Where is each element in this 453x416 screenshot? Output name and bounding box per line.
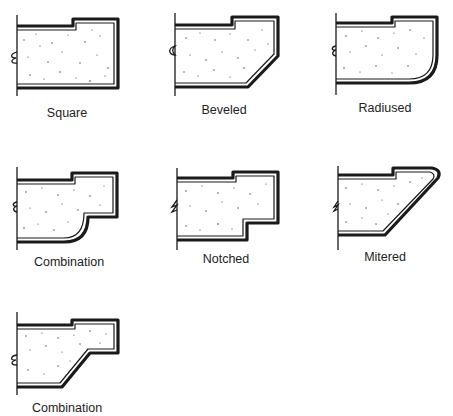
outer-edge bbox=[17, 173, 117, 242]
countertop-edge-profiles-diagram: Square Beveled Radiused bbox=[0, 0, 453, 416]
label-square: Square bbox=[47, 106, 87, 120]
label-radiused: Radiused bbox=[359, 101, 412, 115]
label-notched: Notched bbox=[203, 252, 250, 266]
label-beveled: Beveled bbox=[201, 103, 246, 117]
stipple-texture bbox=[23, 185, 104, 230]
outer-edge bbox=[175, 17, 278, 87]
inner-edge bbox=[17, 23, 114, 84]
profile-radiused: Radiused bbox=[332, 13, 437, 115]
profile-square: Square bbox=[12, 15, 118, 120]
break-symbol-icon bbox=[12, 355, 17, 365]
stipple-texture bbox=[23, 29, 108, 81]
profile-combination-radius: Combination bbox=[13, 167, 117, 269]
profile-combination-bevel: Combination bbox=[12, 312, 118, 415]
outer-edge bbox=[17, 320, 118, 387]
profile-notched: Notched bbox=[172, 168, 278, 266]
inner-edge bbox=[338, 172, 434, 231]
stipple-texture bbox=[343, 29, 424, 73]
inner-edge bbox=[17, 177, 113, 238]
break-symbol-icon bbox=[172, 200, 177, 212]
inner-edge bbox=[336, 21, 433, 79]
label-mitered: Mitered bbox=[364, 250, 406, 264]
label-combination-1: Combination bbox=[34, 255, 104, 269]
break-symbol-icon bbox=[12, 52, 17, 63]
break-symbol-icon bbox=[334, 201, 338, 211]
inner-edge bbox=[177, 176, 274, 236]
profile-mitered: Mitered bbox=[334, 166, 439, 264]
outer-edge bbox=[17, 19, 118, 88]
profile-beveled: Beveled bbox=[170, 13, 278, 117]
label-combination-2: Combination bbox=[32, 401, 102, 415]
break-symbol-icon bbox=[170, 46, 175, 55]
stipple-texture bbox=[183, 29, 268, 77]
